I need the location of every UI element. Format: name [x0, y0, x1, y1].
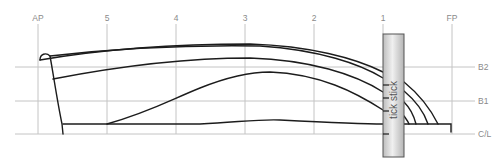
waterline-middle-extension — [404, 116, 409, 124]
station-label-5: 5 — [105, 13, 110, 23]
station-labels: AP 5 4 3 2 1 FP — [32, 13, 457, 23]
sheer-inner-extension — [404, 91, 428, 124]
transom-outline — [40, 54, 63, 134]
hull-lines-diagram: AP 5 4 3 2 1 FP B2 B1 C/L — [0, 0, 502, 166]
waterline-lower — [63, 120, 383, 124]
station-label-4: 4 — [174, 13, 179, 23]
buttock-label-b1: B1 — [478, 96, 489, 106]
station-label-2: 2 — [312, 13, 317, 23]
waterline-upper-extension — [404, 102, 416, 124]
sheer-line-outer — [40, 44, 383, 72]
tick-stick: tick stick — [383, 34, 404, 157]
station-label-fp: FP — [447, 13, 458, 23]
sheer-line-inner — [50, 46, 383, 78]
waterline-upper — [53, 58, 383, 92]
station-label-1: 1 — [381, 13, 386, 23]
station-label-ap: AP — [32, 13, 44, 23]
buttock-label-cl: C/L — [478, 129, 492, 139]
sheer-extension — [404, 82, 438, 124]
stem-baseline — [404, 124, 451, 132]
buttock-labels: B2 B1 C/L — [478, 62, 492, 139]
buttock-label-b2: B2 — [478, 62, 489, 72]
tick-stick-label: tick stick — [388, 80, 399, 119]
station-label-3: 3 — [243, 13, 248, 23]
